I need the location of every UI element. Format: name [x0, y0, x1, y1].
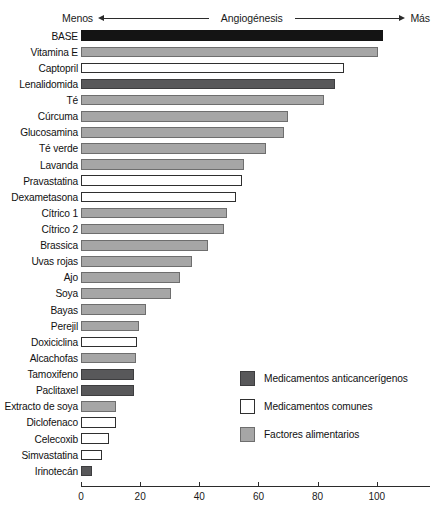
bar — [81, 143, 266, 154]
bar-category-label: Lenalidomida — [0, 79, 78, 90]
bar — [81, 47, 378, 58]
bar — [81, 433, 109, 444]
bar — [81, 272, 180, 283]
bar-category-label: Alcachofas — [0, 353, 78, 364]
bar — [81, 208, 227, 219]
legend-label: Medicamentos anticancerígenos — [264, 373, 408, 384]
bar — [81, 175, 242, 186]
bar-category-label: Soya — [0, 288, 78, 299]
bar-category-label: Té verde — [0, 143, 78, 154]
x-axis-tick — [258, 482, 259, 486]
bar-category-label: Captopril — [0, 63, 78, 74]
angiogenesis-bar-chart: Menos Angiogénesis Más BASEVitamina ECap… — [0, 0, 436, 521]
legend-swatch-anticancer — [240, 371, 255, 386]
legend-label: Medicamentos comunes — [264, 401, 372, 412]
bar-category-label: Cítrico 2 — [0, 224, 78, 235]
chart-row: Té verde — [0, 141, 436, 157]
x-axis-tick-label: 80 — [312, 491, 323, 502]
chart-legend: Medicamentos anticancerígenosMedicamento… — [240, 364, 436, 448]
chart-row: Pravastatina — [0, 173, 436, 189]
bar — [81, 256, 192, 267]
chart-row: Bayas — [0, 302, 436, 318]
bar-category-label: Cúrcuma — [0, 111, 78, 122]
arrow-left-icon — [98, 14, 213, 23]
bar — [81, 95, 324, 106]
legend-label: Factores alimentarios — [264, 429, 359, 440]
bar — [81, 79, 335, 90]
x-axis-tick — [199, 482, 200, 486]
legend-swatch-common — [240, 399, 255, 414]
chart-row: BASE — [0, 28, 436, 44]
bar — [81, 111, 288, 122]
bar — [81, 159, 244, 170]
bar — [81, 417, 116, 428]
x-axis-tick-label: 0 — [78, 491, 84, 502]
bar-category-label: Brassica — [0, 240, 78, 251]
x-axis-tick-label: 60 — [253, 491, 264, 502]
bar-category-label: Diclofenaco — [0, 417, 78, 428]
bar-category-label: Simvastatina — [0, 450, 78, 461]
chart-row: Brassica — [0, 238, 436, 254]
bar — [81, 63, 344, 74]
bar — [81, 240, 208, 251]
x-axis-tick — [140, 482, 141, 486]
bar — [81, 224, 224, 235]
chart-row: Soya — [0, 286, 436, 302]
bar-category-label: Cítrico 1 — [0, 208, 78, 219]
bar-category-label: Vitamina E — [0, 47, 78, 58]
bar — [81, 337, 137, 348]
bar — [81, 321, 139, 332]
bar — [81, 288, 171, 299]
legend-swatch-food — [240, 427, 255, 442]
arrow-right-icon — [291, 14, 406, 23]
bar — [81, 466, 92, 477]
x-axis-tick — [81, 482, 82, 486]
chart-direction-header: Menos Angiogénesis Más — [62, 9, 430, 27]
bar-category-label: Doxiciclina — [0, 337, 78, 348]
bar — [81, 401, 116, 412]
bar-category-label: Glucosamina — [0, 127, 78, 138]
bar-category-label: Pravastatina — [0, 176, 78, 187]
chart-row: Cúrcuma — [0, 109, 436, 125]
bar — [81, 192, 236, 203]
x-axis-line — [81, 486, 430, 487]
chart-row: Vitamina E — [0, 44, 436, 60]
bar-category-label: Lavanda — [0, 160, 78, 171]
chart-row: Irinotecán — [0, 463, 436, 479]
axis-direction-less-label: Menos — [62, 12, 93, 24]
chart-row: Captopril — [0, 60, 436, 76]
bar-category-label: Extracto de soya — [0, 401, 78, 412]
legend-item: Factores alimentarios — [240, 420, 436, 448]
chart-row: Cítrico 2 — [0, 221, 436, 237]
chart-row: Cítrico 1 — [0, 205, 436, 221]
chart-row: Lavanda — [0, 157, 436, 173]
chart-row: Glucosamina — [0, 125, 436, 141]
bar — [81, 30, 383, 41]
legend-item: Medicamentos comunes — [240, 392, 436, 420]
chart-row: Lenalidomida — [0, 76, 436, 92]
chart-title: Angiogénesis — [218, 12, 286, 24]
bar-category-label: Perejil — [0, 321, 78, 332]
bar-category-label: Paclitaxel — [0, 385, 78, 396]
x-axis-tick-label: 40 — [194, 491, 205, 502]
bar-category-label: Té — [0, 95, 78, 106]
bar — [81, 353, 136, 364]
bar-category-label: Ajo — [0, 272, 78, 283]
x-axis-tick — [377, 482, 378, 486]
x-axis: 020406080100 — [0, 486, 436, 521]
chart-row: Doxiciclina — [0, 334, 436, 350]
bar-category-label: Uvas rojas — [0, 256, 78, 267]
bar-category-label: Irinotecán — [0, 466, 78, 477]
bar — [81, 127, 284, 138]
chart-row: Ajo — [0, 270, 436, 286]
x-axis-tick-label: 20 — [135, 491, 146, 502]
chart-row: Simvastatina — [0, 447, 436, 463]
x-axis-tick-label: 100 — [368, 491, 385, 502]
bar-category-label: Dexametasona — [0, 192, 78, 203]
axis-direction-more-label: Más — [410, 12, 430, 24]
x-axis-tick — [318, 482, 319, 486]
chart-row: Uvas rojas — [0, 254, 436, 270]
bar-category-label: Bayas — [0, 305, 78, 316]
bar — [81, 369, 134, 380]
chart-row: Dexametasona — [0, 189, 436, 205]
